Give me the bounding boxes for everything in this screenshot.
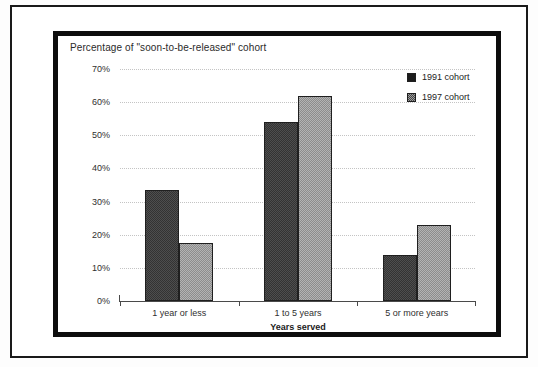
legend-swatch-icon [407, 73, 416, 82]
bar [383, 255, 417, 301]
y-axis-tick-label: 0% [97, 296, 110, 306]
y-axis-labels: 0%10%20%30%40%50%60%70% [58, 69, 116, 301]
chart-canvas: Percentage of "soon-to-be-released" coho… [58, 36, 496, 332]
bar [298, 96, 332, 301]
legend-item: 1991 cohort [407, 69, 470, 85]
chart-legend: 1991 cohort1997 cohort [407, 69, 470, 109]
y-axis-tick-label: 60% [92, 97, 110, 107]
y-axis-tick-label: 50% [92, 130, 110, 140]
y-axis-line [119, 295, 120, 302]
bar [179, 243, 213, 301]
x-axis-line [120, 301, 476, 302]
x-axis-tick-label: 1 year or less [152, 308, 206, 318]
bar [264, 122, 298, 301]
y-axis-tick-label: 30% [92, 197, 110, 207]
bar [145, 190, 179, 301]
x-axis-tick-label: 1 to 5 years [274, 308, 321, 318]
chart-title: Percentage of "soon-to-be-released" coho… [70, 42, 266, 53]
chart-frame: Percentage of "soon-to-be-released" coho… [53, 31, 501, 337]
y-axis-tick-label: 40% [92, 163, 110, 173]
x-axis-title: Years served [270, 322, 326, 332]
y-axis-tick-label: 20% [92, 230, 110, 240]
legend-swatch-icon [407, 93, 416, 102]
x-axis-tick-label: 5 or more years [385, 308, 448, 318]
legend-label: 1991 cohort [422, 72, 470, 82]
bar [417, 225, 451, 301]
page-outer-border: Percentage of "soon-to-be-released" coho… [10, 5, 528, 358]
chart-page: Percentage of "soon-to-be-released" coho… [0, 0, 538, 367]
legend-label: 1997 cohort [422, 92, 470, 102]
y-axis-tick-label: 10% [92, 263, 110, 273]
y-axis-tick-label: 70% [92, 64, 110, 74]
legend-item: 1997 cohort [407, 89, 470, 105]
